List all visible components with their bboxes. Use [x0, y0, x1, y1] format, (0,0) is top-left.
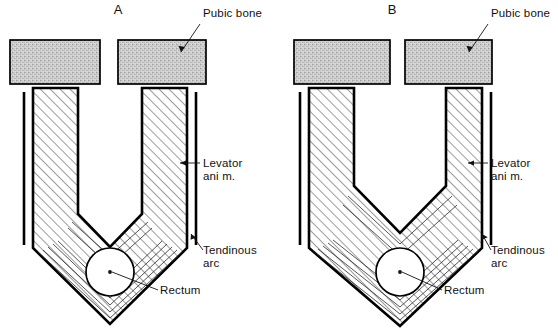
label-tendinous-arc-line1-a: Tendinous — [203, 244, 257, 256]
pubic-bone-left-a — [10, 40, 100, 84]
label-pubic-bone-b: Pubic bone — [491, 7, 550, 19]
pubic-bone-right-b — [405, 40, 492, 84]
label-pubic-bone-a: Pubic bone — [203, 7, 262, 19]
panel-a-letter: A — [114, 2, 123, 17]
label-tendinous-arc-line2-b: arc — [491, 257, 508, 269]
anatomical-figure: A — [0, 0, 558, 330]
pubic-bone-right-a — [118, 40, 206, 84]
panel-b-letter: B — [388, 2, 397, 17]
label-rectum-a: Rectum — [160, 284, 201, 296]
label-levator-ani-line1-a: Levator — [203, 157, 242, 169]
panel-a: A — [10, 2, 262, 324]
panel-b: B — [294, 2, 550, 326]
label-levator-ani-line2-b: ani m. — [491, 170, 523, 182]
figure-canvas: A — [0, 0, 558, 330]
rectum-marker-dot-a — [108, 270, 112, 274]
label-tendinous-arc-line2-a: arc — [203, 257, 220, 269]
rectum-marker-dot-b — [398, 270, 402, 274]
label-tendinous-arc-line1-b: Tendinous — [491, 244, 545, 256]
pubic-bone-left-b — [294, 40, 390, 84]
label-rectum-b: Rectum — [444, 284, 485, 296]
label-levator-ani-line1-b: Levator — [491, 157, 530, 169]
label-levator-ani-line2-a: ani m. — [203, 170, 235, 182]
